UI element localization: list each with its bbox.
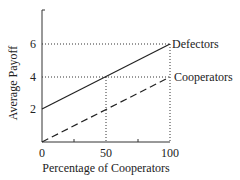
defectors-label: Defectors <box>172 37 219 51</box>
cooperators-label: Cooperators <box>174 70 233 84</box>
x-tick-0: 0 <box>39 146 45 160</box>
x-tick-50: 50 <box>100 146 112 160</box>
x-axis-label: Percentage of Cooperators <box>42 161 170 175</box>
x-tick-100: 100 <box>161 146 179 160</box>
payoff-chart: 6 4 2 0 50 100 Percentage of Cooperators… <box>0 0 240 180</box>
y-tick-4: 4 <box>30 70 36 84</box>
y-tick-2: 2 <box>30 102 36 116</box>
y-tick-6: 6 <box>30 37 36 51</box>
y-axis-label: Average Payoff <box>6 46 20 121</box>
